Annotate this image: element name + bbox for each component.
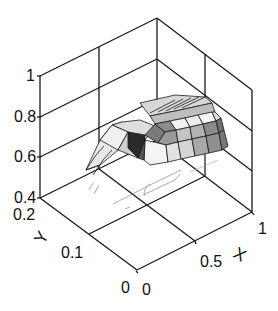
y-tick-0.1: 0.1	[61, 245, 83, 261]
x-tick-0: 0	[142, 282, 151, 298]
z-tick-1: 1	[26, 68, 35, 84]
y-tick-0.2: 0.2	[13, 207, 35, 223]
z-tick-0.8: 0.8	[14, 109, 36, 125]
z-tick-0.6: 0.6	[14, 149, 36, 165]
surface-plot	[0, 0, 278, 311]
x-tick-0.5: 0.5	[200, 254, 222, 270]
z-tick-0.4: 0.4	[14, 190, 36, 206]
x-tick-1: 1	[258, 221, 267, 237]
surface-mesh	[86, 95, 228, 175]
y-tick-0: 0	[121, 280, 130, 296]
